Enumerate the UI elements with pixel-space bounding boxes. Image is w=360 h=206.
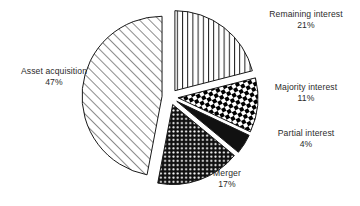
pie-label-value: 11% [258, 93, 354, 104]
pie-label-merger: Merger 17% [196, 168, 258, 190]
pie-slice-asset-acquisition [82, 16, 162, 175]
pie-label-value: 17% [196, 179, 258, 190]
pie-label-value: 21% [258, 20, 354, 31]
pie-label-partial-interest: Partial interest 4% [258, 128, 354, 150]
pie-slices [82, 11, 258, 185]
pie-slice-remaining-interest [175, 11, 252, 91]
pie-label-value: 47% [8, 77, 100, 88]
pie-label-value: 4% [258, 139, 354, 150]
pie-label-asset-acquisition: Asset acquisition 47% [8, 66, 100, 88]
pie-label-name: Remaining interest [258, 9, 354, 20]
pie-label-majority-interest: Majority interest 11% [258, 82, 354, 104]
pie-label-name: Asset acquisition [8, 66, 100, 77]
pie-chart: Asset acquisition 47% Remaining interest… [0, 0, 360, 206]
pie-label-name: Merger [196, 168, 258, 179]
pie-label-name: Partial interest [258, 128, 354, 139]
pie-label-remaining-interest: Remaining interest 21% [258, 9, 354, 31]
pie-label-name: Majority interest [258, 82, 354, 93]
